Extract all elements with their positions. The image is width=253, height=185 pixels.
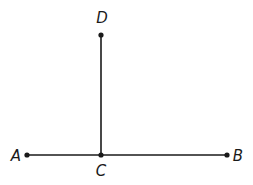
point-b-label: B	[233, 147, 243, 165]
point-a-dot	[24, 152, 29, 157]
points	[24, 32, 229, 157]
point-c-label: C	[96, 162, 107, 180]
segments	[27, 35, 227, 155]
point-a-label: A	[10, 147, 21, 165]
point-c-dot	[98, 152, 103, 157]
point-b-dot	[224, 152, 229, 157]
point-d-label: D	[96, 9, 108, 27]
point-d-dot	[98, 32, 103, 37]
geometry-diagram: ABCD	[0, 0, 253, 185]
